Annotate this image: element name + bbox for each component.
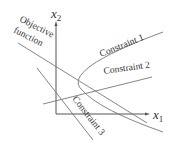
y-axis-label: x2 bbox=[50, 6, 61, 23]
x-axis-arrow-icon bbox=[145, 113, 150, 116]
optimization-diagram: x2 x1 Objective function Constraint 1 Co… bbox=[0, 0, 175, 151]
constraint-1-label: Constraint 1 bbox=[98, 32, 145, 59]
x-axis-label: x1 bbox=[152, 107, 163, 124]
constraint-3-label: Constraint 3 bbox=[70, 94, 107, 137]
constraint-2-label: Constraint 2 bbox=[103, 60, 151, 76]
constraint-2-line bbox=[43, 77, 152, 104]
